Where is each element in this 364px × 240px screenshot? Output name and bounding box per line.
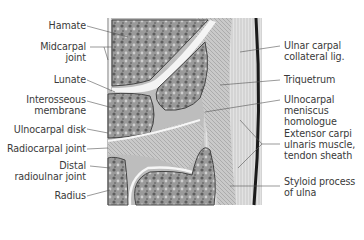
label-hamate: Hamate: [49, 20, 86, 31]
label-ulnocarpal-meniscus-homologue: Ulnocarpal meniscus homologue: [284, 94, 337, 127]
label-radiocarpal-joint: Radiocarpal joint: [7, 143, 86, 154]
label-lunate: Lunate: [54, 74, 86, 85]
label-interosseous-membrane: Interosseous membrane: [26, 94, 86, 116]
label-ulnocarpal-disk: Ulnocarpal disk: [14, 124, 86, 135]
label-distal-radioulnar-joint: Distal radioulnar joint: [14, 160, 86, 182]
label-triquetrum: Triquetrum: [284, 74, 335, 85]
lunate-bone: [108, 93, 154, 138]
label-ulnar-carpal-collateral-lig: Ulnar carpal collateral lig.: [284, 40, 345, 62]
radius-bone: [108, 157, 128, 205]
label-midcarpal-joint: Midcarpal joint: [40, 41, 86, 63]
label-radius: Radius: [54, 190, 86, 201]
label-extensor-carpi-ulnaris: Extensor carpi ulnaris muscle, tendon sh…: [284, 128, 355, 161]
label-styloid-process-ulna: Styloid process of ulna: [284, 176, 355, 198]
